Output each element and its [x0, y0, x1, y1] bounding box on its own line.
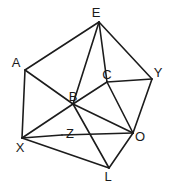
- graph-node-e: E: [92, 6, 101, 19]
- graph-edge-a-e: [25, 22, 99, 70]
- graph-node-b: B: [69, 90, 78, 103]
- graph-node-c: C: [102, 68, 111, 81]
- graph-edge-y-o: [133, 79, 152, 133]
- graph-node-l: L: [104, 170, 111, 183]
- graph-node-y: Y: [154, 66, 163, 79]
- graph-node-o: O: [135, 130, 145, 143]
- graph-edge-o-l: [109, 133, 133, 168]
- graph-edge-x-z: [22, 135, 62, 138]
- edges-group: [22, 22, 152, 168]
- graph-node-x: X: [16, 141, 25, 154]
- graph-edge-a-x: [22, 70, 25, 138]
- graph-node-a: A: [12, 56, 21, 69]
- graph-node-z: Z: [66, 127, 74, 140]
- graph-edges-layer: [0, 0, 174, 189]
- graph-edge-a-b: [25, 70, 73, 104]
- graph-edge-x-l: [22, 138, 109, 168]
- graph-edge-c-y: [107, 79, 152, 82]
- graph-diagram: AEBCYXZOL: [0, 0, 174, 189]
- graph-edge-b-l: [73, 104, 109, 168]
- graph-edge-c-o: [107, 82, 133, 133]
